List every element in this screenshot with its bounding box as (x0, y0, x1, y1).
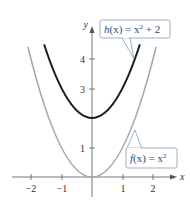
f-label-text: f(x) = x2 (130, 152, 167, 165)
tick-label-x-1: 1 (121, 183, 126, 194)
axes (12, 26, 177, 197)
f-label-callout: f(x) = x2 (126, 130, 177, 168)
tick-label-x-neg1: −1 (57, 183, 68, 194)
h-label-callout: h(x) = x2 + 2 (100, 20, 170, 59)
tick-label-y-3: 3 (80, 84, 85, 95)
y-axis-label: y (83, 19, 89, 30)
h-label-text: h(x) = x2 + 2 (104, 23, 160, 36)
y-axis-arrow-icon (90, 26, 95, 33)
x-axis-arrow-icon (170, 175, 177, 180)
graph: −2 −1 1 2 1 3 4 x y h(x) = x2 + 2 f(x) =… (0, 0, 190, 203)
tick-label-x-neg2: −2 (26, 183, 37, 194)
tick-label-x-2: 2 (151, 183, 156, 194)
tick-label-y-4: 4 (80, 54, 85, 65)
x-axis-label: x (179, 171, 185, 182)
tick-label-y-1: 1 (80, 143, 85, 154)
